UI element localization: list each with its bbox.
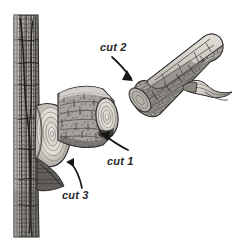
cut1-arrow-line [106, 136, 128, 150]
illustration-canvas: cut 2 cut 1 cut 3 [0, 0, 236, 251]
cut2-arrow-head [122, 70, 133, 81]
pruning-diagram-figure: cut 2 cut 1 cut 3 [0, 0, 236, 251]
label-cut-2: cut 2 [100, 41, 127, 53]
removed-limb [125, 34, 232, 117]
label-cut-3: cut 3 [62, 189, 89, 201]
limb-side-twig [183, 80, 232, 100]
cut3-arrow-head [66, 158, 74, 167]
label-cut-1: cut 1 [107, 155, 134, 167]
cut3-arrow-line [71, 163, 82, 188]
